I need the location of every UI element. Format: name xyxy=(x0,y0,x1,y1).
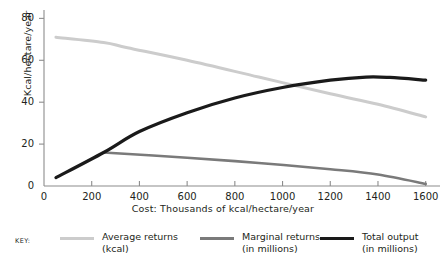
y-tick-label: 0 xyxy=(12,180,34,191)
x-tick-label: 0 xyxy=(24,191,64,202)
plot-area: Kcal/hectare/year 020406080 020040060080… xyxy=(0,0,446,200)
x-tick-label: 1600 xyxy=(406,191,446,202)
x-tick-label: 600 xyxy=(167,191,207,202)
legend-entry-label: Total output(in millions) xyxy=(362,231,419,254)
legend-key-label: KEY: xyxy=(15,237,30,245)
x-tick-label: 800 xyxy=(215,191,255,202)
x-tick-label: 1000 xyxy=(263,191,303,202)
legend-label-line1: Marginal returns xyxy=(242,231,320,242)
x-tick-label: 1200 xyxy=(310,191,350,202)
y-tick-label: 60 xyxy=(12,54,34,65)
legend-entry: Average returns(kcal) xyxy=(60,231,178,254)
line-chart-svg xyxy=(0,0,446,200)
y-tick-label: 80 xyxy=(12,12,34,23)
y-tick-label: 40 xyxy=(12,96,34,107)
legend-entry: Total output(in millions) xyxy=(320,231,419,254)
legend-label-line1: Total output xyxy=(362,231,419,242)
legend-line-swatch-icon xyxy=(320,237,354,240)
legend-label-line2: (in millions) xyxy=(362,243,419,255)
axis-lines xyxy=(44,10,440,186)
legend-line-swatch-icon xyxy=(60,237,94,240)
legend-label-line2: (kcal) xyxy=(102,243,178,255)
x-axis-ticks xyxy=(92,181,426,186)
legend-label-line1: Average returns xyxy=(102,231,178,242)
x-tick-label: 200 xyxy=(72,191,112,202)
legend-entry-label: Average returns(kcal) xyxy=(102,231,178,254)
legend-label-line2: (in millions) xyxy=(242,243,320,255)
x-tick-label: 400 xyxy=(119,191,159,202)
legend-line-swatch-icon xyxy=(200,237,234,240)
chart-legend: KEY: Average returns(kcal)Marginal retur… xyxy=(0,231,446,265)
legend-entry-label: Marginal returns(in millions) xyxy=(242,231,320,254)
series-line xyxy=(104,152,426,183)
y-tick-label: 20 xyxy=(12,138,34,149)
data-series-group xyxy=(56,37,426,184)
x-axis-title: Cost: Thousands of kcal/hectare/year xyxy=(0,203,446,214)
y-axis-ticks xyxy=(39,18,44,144)
legend-entry: Marginal returns(in millions) xyxy=(200,231,320,254)
chart-figure: Kcal/hectare/year 020406080 020040060080… xyxy=(0,0,446,265)
x-tick-label: 1400 xyxy=(358,191,398,202)
